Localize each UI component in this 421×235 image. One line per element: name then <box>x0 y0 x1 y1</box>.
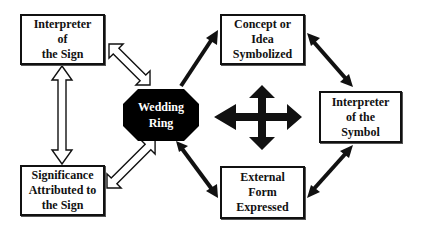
node-text: Interpreter <box>332 95 390 110</box>
hollow-arrow-significance-to-ring <box>100 133 162 195</box>
node-text: Interpreter <box>34 17 92 32</box>
node-significance-attributed: Significance Attributed to the Sign <box>20 165 105 216</box>
node-interpreter-of-the-sign: Interpreter of the Sign <box>20 14 105 65</box>
hollow-arrow-sign-to-ring <box>102 37 157 92</box>
solid-arrow-concept-to-symbol <box>307 33 353 87</box>
node-text: the Sign <box>34 47 92 62</box>
node-text: Form <box>236 185 288 200</box>
node-text: Symbol <box>332 125 390 140</box>
wedding-ring-line-2: Ring <box>149 115 174 131</box>
four-way-arrow-icon <box>214 85 302 150</box>
hollow-arrow-sign-to-significance <box>52 66 72 164</box>
node-text: Expressed <box>236 200 288 215</box>
node-text: Idea <box>233 32 292 47</box>
node-text: the Sign <box>29 198 97 213</box>
node-text: Significance <box>29 168 97 183</box>
wedding-ring-line-1: Wedding <box>138 99 184 115</box>
node-text: Attributed to <box>29 183 97 198</box>
node-text: of the <box>332 110 390 125</box>
solid-arrow-ring-to-concept <box>181 30 218 86</box>
node-external-form-expressed: External Form Expressed <box>220 166 305 219</box>
node-concept-or-idea-symbolized: Concept or Idea Symbolized <box>220 14 305 65</box>
node-text: External <box>236 170 288 185</box>
solid-arrow-ring-to-external <box>176 141 218 198</box>
solid-arrow-external-to-symbol <box>307 145 353 198</box>
node-text: Symbolized <box>233 47 292 62</box>
node-text: Concept or <box>233 17 292 32</box>
node-text: of <box>34 32 92 47</box>
node-interpreter-of-the-symbol: Interpreter of the Symbol <box>319 91 402 143</box>
wedding-ring-label: Wedding Ring <box>123 89 199 141</box>
